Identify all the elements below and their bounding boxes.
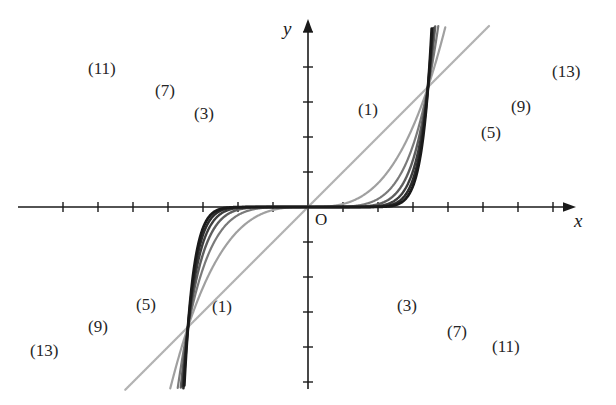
curve-label-11-upper: (11) — [88, 59, 116, 79]
y-axis-label: y — [283, 18, 291, 40]
curve-label-3-upper: (3) — [194, 104, 214, 124]
curve-label-11-lower: (11) — [492, 337, 520, 357]
curve-label-5-upper: (5) — [481, 123, 501, 143]
odd-power-functions-figure: (1)(1)(3)(3)(5)(5)(7)(7)(9)(9)(11)(11)(1… — [0, 0, 616, 405]
curve-label-5-lower: (5) — [136, 295, 156, 315]
curve-label-13-upper: (13) — [552, 62, 580, 82]
curve-label-7-upper: (7) — [155, 81, 175, 101]
x-axis-label: x — [574, 210, 582, 232]
curve-label-1-upper: (1) — [358, 100, 378, 120]
curve-label-1-lower: (1) — [212, 297, 232, 317]
curve-label-3-lower: (3) — [397, 296, 417, 316]
curves-group — [125, 26, 489, 390]
curve-label-9-upper: (9) — [511, 97, 531, 117]
origin-label: O — [315, 210, 327, 230]
curve-label-9-lower: (9) — [88, 317, 108, 337]
curve-label-13-lower: (13) — [30, 341, 58, 361]
curve-label-7-lower: (7) — [447, 322, 467, 342]
y-axis-arrowhead — [303, 19, 313, 32]
